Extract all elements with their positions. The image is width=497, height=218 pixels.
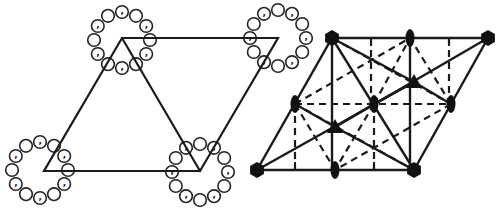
comma-mark-icon: , [145, 48, 148, 58]
comma-mark-icon: , [121, 62, 124, 72]
comma-mark-icon: , [96, 48, 99, 58]
dashed-lines [257, 38, 451, 170]
motif-circle [102, 10, 115, 23]
comma-mark-icon: , [63, 178, 66, 188]
twofold-axis-ellipse-icon [406, 29, 415, 47]
figure-canvas: ,,,,,,,,,,,,,,,,,,,,,,,, [0, 0, 497, 218]
comma-mark-icon: , [213, 190, 216, 200]
motif-circle [6, 164, 19, 177]
comma-mark-icon: , [291, 8, 294, 18]
comma-mark-icon: , [39, 136, 42, 146]
comma-mark-icon: , [145, 20, 148, 30]
motif-circle [218, 180, 231, 193]
comma-mark-icon: , [227, 166, 230, 176]
twofold-axis-ellipse-icon [447, 95, 456, 113]
sixfold-axis-hexagon-icon [250, 162, 264, 178]
motif-circle [296, 46, 309, 59]
symmetry-symbols [250, 29, 495, 179]
motif-circle [248, 18, 261, 31]
motif-circle [88, 34, 101, 47]
motif-circle [20, 188, 33, 201]
motif-circle [170, 152, 183, 165]
twofold-axis-ellipse-icon [370, 95, 379, 113]
motif-circle [144, 34, 157, 47]
comma-mark-icon: , [39, 192, 42, 202]
motif-circle [194, 194, 207, 207]
comma-mark-icon: , [305, 32, 308, 42]
comma-mark-icon: , [185, 190, 188, 200]
comma-mark-icon: , [14, 150, 17, 160]
sixfold-axis-hexagon-icon [481, 30, 495, 46]
comma-mark-icon: , [291, 56, 294, 66]
motif-circle [20, 140, 33, 153]
comma-mark-icon: , [63, 150, 66, 160]
motif-circle [130, 10, 143, 23]
cell-diagonal [122, 38, 200, 171]
threefold-axis-triangle-icon [327, 119, 343, 133]
comma-mark-icon: , [263, 8, 266, 18]
motif-circle [296, 18, 309, 31]
motif-circle [272, 60, 285, 73]
motif-circle [170, 180, 183, 193]
twofold-axis-ellipse-icon [331, 161, 340, 179]
comma-mark-icon: , [121, 6, 124, 16]
motif-rings: ,,,,,,,,,,,,,,,,,,,,,,,, [6, 4, 313, 207]
comma-mark-icon: , [14, 178, 17, 188]
twofold-axis-ellipse-icon [291, 95, 300, 113]
left-panel: ,,,,,,,,,,,,,,,,,,,,,,,, [6, 4, 313, 207]
comma-mark-icon: , [96, 20, 99, 30]
motif-circle [272, 4, 285, 17]
motif-circle [194, 138, 207, 151]
motif-circle [218, 152, 231, 165]
motif-circle [48, 188, 61, 201]
right-panel [250, 29, 495, 179]
motif-circle [248, 46, 261, 59]
